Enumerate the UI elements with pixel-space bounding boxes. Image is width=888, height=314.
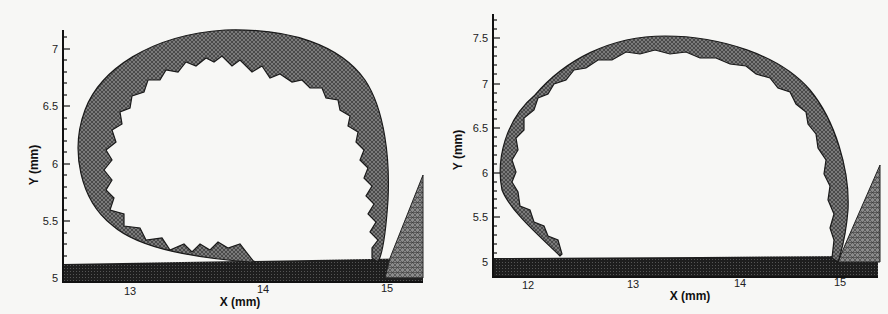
figure: 7 6.5 6 5.5 5 13 14 15 X (mm) Y (mm) — [0, 0, 888, 314]
right-y-tick-label: 6 — [482, 167, 488, 179]
right-ring — [500, 36, 848, 262]
left-ring — [78, 30, 388, 262]
right-x-tick-label: 13 — [627, 278, 639, 290]
right-x-axis-title: X (mm) — [670, 289, 711, 303]
left-y-tick-label: 5 — [52, 272, 58, 284]
right-plate — [493, 256, 878, 277]
right-y-tick-label: 5 — [482, 256, 488, 268]
left-panel: 7 6.5 6 5.5 5 13 14 15 X (mm) Y (mm) — [27, 30, 423, 309]
right-y-tick-label: 7 — [482, 78, 488, 90]
left-y-ticks — [63, 37, 70, 256]
left-y-axis-title: Y (mm) — [27, 145, 41, 185]
left-x-tick-label: 15 — [381, 282, 393, 294]
left-y-tick-label: 6.5 — [43, 100, 58, 112]
right-y-tick-label: 7.5 — [473, 32, 488, 44]
left-x-tick-label: 13 — [124, 285, 136, 297]
right-x-tick-label: 14 — [734, 277, 746, 289]
left-wedge — [385, 175, 423, 278]
right-panel: 7.5 7 6.5 6 5.5 5 12 13 14 15 X (mm) Y (… — [451, 14, 880, 303]
right-y-axis-title: Y (mm) — [451, 130, 465, 170]
left-x-tick-label: 14 — [257, 283, 269, 295]
left-y-tick-label: 7 — [52, 43, 58, 55]
right-x-tick-label: 15 — [834, 276, 846, 288]
right-y-ticks — [493, 20, 500, 253]
right-y-tick-label: 6.5 — [473, 122, 488, 134]
right-y-tick-label: 5.5 — [473, 211, 488, 223]
left-y-tick-label: 6 — [52, 158, 58, 170]
left-x-axis-title: X (mm) — [220, 295, 261, 309]
right-x-tick-label: 12 — [522, 279, 534, 291]
left-y-tick-label: 5.5 — [43, 215, 58, 227]
